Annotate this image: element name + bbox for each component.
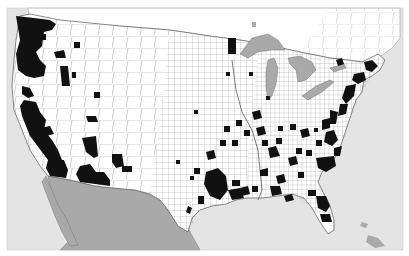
minnesota-counties [228, 38, 236, 54]
map-svg [0, 0, 409, 256]
lake-of-woods [252, 22, 256, 27]
us-county-map [0, 0, 409, 256]
